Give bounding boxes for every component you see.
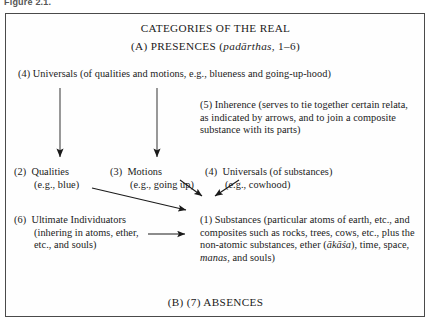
item-substances-middle: ), time, space, (351, 239, 409, 250)
item-inherence: (5) Inherence (serves to tie together ce… (200, 99, 415, 137)
item-motions-line1: (3) Motions (110, 166, 162, 177)
item-substances: (1) Substances (particular atoms of eart… (200, 214, 415, 264)
item-universals-substances-line1: (4) Universals (of substances) (205, 166, 332, 177)
item-qualities-line2: (e.g., blue) (14, 179, 124, 192)
diagram-frame (5, 13, 425, 317)
item-universals-qualities-motions: (4) Universals (of qualities and motions… (18, 68, 418, 81)
item-universals-substances: (4) Universals (of substances)(e.g., cow… (205, 166, 405, 191)
item-individuators-line2: (inhering in atoms, ether, (14, 227, 174, 240)
item-individuators-line1: (6) Ultimate Individuators (14, 214, 126, 225)
item-motions: (3) Motions(e.g., going up) (110, 166, 220, 191)
item-qualities: (2) Qualities(e.g., blue) (14, 166, 124, 191)
item-substances-suffix: , and souls) (227, 252, 275, 263)
manas-term: manas (200, 252, 227, 263)
presences-prefix: (A) PRESENCES ( (131, 40, 223, 52)
presences-heading: (A) PRESENCES (padārthas, 1–6) (0, 40, 431, 53)
presences-suffix: , 1–6) (272, 40, 300, 52)
item-qualities-line1: (2) Qualities (14, 166, 69, 177)
item-individuators-line3: etc., and souls) (14, 239, 174, 252)
item-ultimate-individuators: (6) Ultimate Individuators(inhering in a… (14, 214, 174, 252)
akasa-term: ākāśa (327, 239, 351, 250)
item-motions-line2: (e.g., going up) (110, 179, 220, 192)
diagram-title: CATEGORIES OF THE REAL (0, 22, 431, 35)
figure-caption: Figure 2.1. (4, 0, 51, 7)
item-universals-substances-line2: (e.g., cowhood) (205, 179, 405, 192)
absences-heading: (B) (7) ABSENCES (0, 296, 431, 309)
padarthas-term: padārthas (223, 40, 272, 52)
